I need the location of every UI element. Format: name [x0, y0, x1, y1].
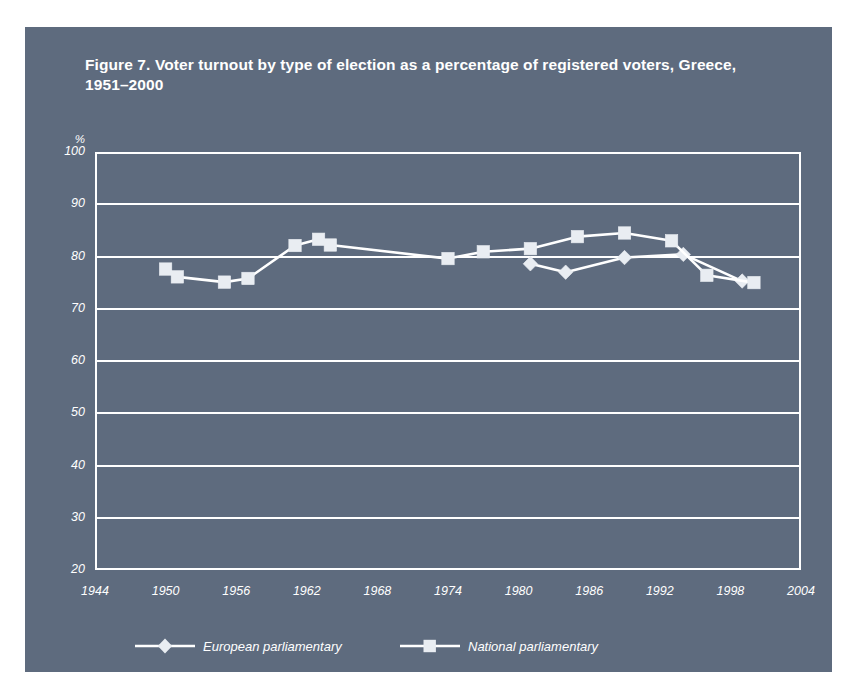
x-axis-tick-1962: 1962: [277, 584, 337, 598]
data-point-marker: [442, 252, 454, 264]
y-axis-tick-70: 70: [45, 301, 85, 315]
data-point-marker: [159, 263, 171, 275]
data-point-marker: [524, 242, 536, 254]
data-point-marker: [617, 250, 631, 264]
series-national-parliamentary: [159, 227, 760, 289]
y-axis-tick-30: 30: [45, 510, 85, 524]
data-point-marker: [748, 276, 760, 288]
y-axis-tick-50: 50: [45, 405, 85, 419]
data-point-marker: [242, 272, 254, 284]
y-axis-tick-80: 80: [45, 249, 85, 263]
y-axis-tick-100: 100: [45, 144, 85, 158]
legend-label: National parliamentary: [468, 639, 598, 654]
data-point-marker: [618, 227, 630, 239]
data-point-marker: [701, 269, 713, 281]
y-axis-tick-40: 40: [45, 458, 85, 472]
legend-item-national-parliamentary: National parliamentary: [400, 637, 598, 655]
data-point-marker: [289, 239, 301, 251]
figure-panel: Figure 7. Voter turnout by type of elect…: [25, 27, 832, 672]
x-axis-tick-1956: 1956: [206, 584, 266, 598]
data-point-marker: [676, 247, 690, 261]
chart-legend: European parliamentaryNational parliamen…: [95, 635, 801, 661]
legend-square-marker-icon: [400, 637, 460, 655]
x-axis-tick-1968: 1968: [347, 584, 407, 598]
data-point-marker: [523, 257, 537, 271]
data-point-marker: [312, 233, 324, 245]
x-axis-tick-1998: 1998: [700, 584, 760, 598]
y-axis-tick-90: 90: [45, 196, 85, 210]
x-axis-tick-1980: 1980: [489, 584, 549, 598]
y-axis-tick-60: 60: [45, 353, 85, 367]
legend-label: European parliamentary: [203, 639, 342, 654]
x-axis-tick-1944: 1944: [65, 584, 125, 598]
x-axis-tick-1992: 1992: [630, 584, 690, 598]
data-point-marker: [571, 230, 583, 242]
legend-diamond-marker-icon: [135, 637, 195, 655]
data-point-marker: [477, 246, 489, 258]
x-axis-tick-1950: 1950: [136, 584, 196, 598]
y-axis-tick-20: 20: [45, 562, 85, 576]
figure-title: Figure 7. Voter turnout by type of elect…: [85, 55, 775, 96]
data-point-marker: [171, 271, 183, 283]
legend-item-european-parliamentary: European parliamentary: [135, 637, 342, 655]
x-axis-tick-1974: 1974: [418, 584, 478, 598]
x-axis-tick-1986: 1986: [559, 584, 619, 598]
data-point-marker: [665, 235, 677, 247]
data-point-marker: [324, 239, 336, 251]
series-european-parliamentary: [523, 247, 749, 288]
data-point-marker: [558, 265, 572, 279]
x-axis-tick-2004: 2004: [771, 584, 831, 598]
plot-area: [95, 152, 801, 570]
chart-svg: [95, 152, 801, 570]
data-point-marker: [218, 276, 230, 288]
